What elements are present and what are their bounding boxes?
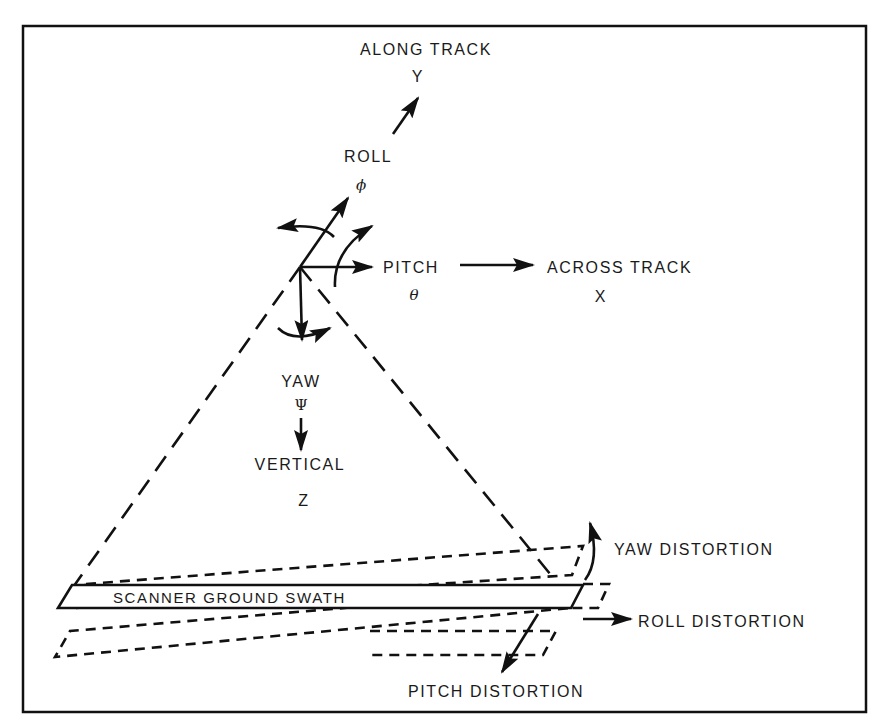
roll-rotation-arrow-icon (278, 226, 334, 237)
scan-cone-lines (64, 267, 555, 600)
yaw-distortion-label: YAW DISTORTION (614, 541, 774, 558)
pitch-distorted-swath (370, 631, 556, 655)
roll-label: ROLL (344, 148, 392, 165)
pitch-label: PITCH (383, 259, 439, 276)
across-track-symbol: X (595, 288, 607, 305)
across-track-label: ACROSS TRACK (547, 259, 692, 276)
vertical-symbol: Z (298, 492, 309, 509)
roll-symbol: ϕ (356, 176, 366, 194)
swath-label: SCANNER GROUND SWATH (113, 589, 346, 606)
yaw-label: YAW (281, 373, 320, 390)
scanner-geometry-diagram: ALONG TRACK Y ROLL ϕ PITCH θ ACROSS TRAC… (0, 0, 885, 727)
along-track-arrow-icon (393, 98, 418, 134)
yaw-distortion-arrow-icon (585, 523, 594, 580)
pitch-distortion-arrow-icon (502, 614, 538, 672)
pitch-distortion-label: PITCH DISTORTION (408, 683, 584, 700)
along-track-label: ALONG TRACK (360, 41, 492, 58)
pitch-rotation-arrow-icon (335, 226, 372, 287)
pitch-symbol: θ (409, 286, 418, 304)
roll-distortion-label: ROLL DISTORTION (638, 613, 806, 630)
along-track-symbol: Y (412, 68, 424, 85)
yaw-symbol: Ψ (294, 396, 307, 414)
yaw-rotation-arrow-icon (278, 328, 330, 337)
yaw-axis-arrow-icon (300, 267, 302, 340)
vertical-label: VERTICAL (255, 456, 346, 473)
scanner-ground-swath: SCANNER GROUND SWATH (58, 585, 583, 608)
